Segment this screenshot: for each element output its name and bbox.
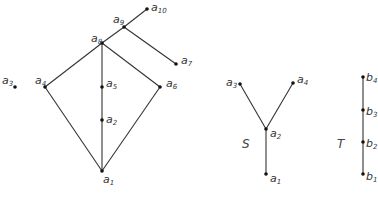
node-label-main-poset-a9: a9 xyxy=(113,13,125,27)
node-main-poset-a3 xyxy=(13,85,17,89)
node-S-a1 xyxy=(264,172,268,176)
label-layer: a1a2a3a4a5a6a7a8a9a10a1a2a3a4Sb1b2b3b4T xyxy=(2,1,378,187)
node-label-T-b2: b2 xyxy=(366,137,378,151)
edge-main-poset-a9-a7 xyxy=(124,27,176,64)
edge-main-poset-a1-a6 xyxy=(102,87,160,171)
node-label-main-poset-a5: a5 xyxy=(106,77,118,91)
node-main-poset-a7 xyxy=(174,62,178,66)
node-label-main-poset-a8: a8 xyxy=(91,32,103,46)
node-label-main-poset-a3: a3 xyxy=(2,74,13,88)
node-label-main-poset-a7: a7 xyxy=(181,54,193,68)
node-label-main-poset-a1: a1 xyxy=(103,173,114,187)
edge-main-poset-a1-a4 xyxy=(45,87,102,171)
node-main-poset-a5 xyxy=(100,85,104,89)
diagram-label-S: S xyxy=(242,137,250,151)
node-S-a2 xyxy=(264,127,268,131)
node-T-b3 xyxy=(361,108,365,112)
diagram-label-T: T xyxy=(337,137,346,151)
node-layer xyxy=(13,7,365,176)
node-T-b1 xyxy=(361,172,365,176)
node-label-main-poset-a2: a2 xyxy=(106,113,118,127)
node-label-T-b1: b1 xyxy=(366,170,377,184)
edge-main-poset-a9-a10 xyxy=(124,9,147,27)
edge-main-poset-a4-a8 xyxy=(45,43,102,87)
node-main-poset-a6 xyxy=(158,85,162,89)
node-S-a4 xyxy=(291,81,295,85)
node-S-a3 xyxy=(238,82,242,86)
node-label-main-poset-a6: a6 xyxy=(166,77,178,91)
node-label-S-a2: a2 xyxy=(270,127,282,141)
edge-main-poset-a8-a9 xyxy=(102,27,124,43)
node-label-main-poset-a4: a4 xyxy=(35,74,46,88)
node-label-S-a4: a4 xyxy=(297,73,308,87)
edge-S-a2-a4 xyxy=(266,83,293,129)
node-label-T-b4: b4 xyxy=(366,71,377,85)
node-T-b4 xyxy=(361,75,365,79)
node-main-poset-a2 xyxy=(100,118,104,122)
node-main-poset-a10 xyxy=(145,7,149,11)
node-label-S-a1: a1 xyxy=(270,172,281,186)
node-T-b2 xyxy=(361,140,365,144)
node-label-S-a3: a3 xyxy=(226,76,237,90)
node-label-T-b3: b3 xyxy=(366,105,377,119)
poset-diagrams: a1a2a3a4a5a6a7a8a9a10a1a2a3a4Sb1b2b3b4T xyxy=(0,0,378,197)
node-label-main-poset-a10: a10 xyxy=(151,1,167,15)
edge-S-a2-a3 xyxy=(240,84,266,129)
